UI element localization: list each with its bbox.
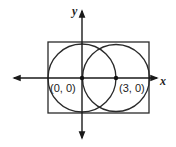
- point-3-0: [114, 76, 118, 80]
- point-label-origin: (0, 0): [50, 82, 76, 94]
- point-label-3-0: (3, 0): [119, 82, 145, 94]
- y-axis-label: y: [70, 4, 78, 18]
- x-axis-label: x: [159, 74, 166, 88]
- point-origin: [80, 76, 84, 80]
- coordinate-diagram: (0, 0) (3, 0) x y: [0, 0, 176, 147]
